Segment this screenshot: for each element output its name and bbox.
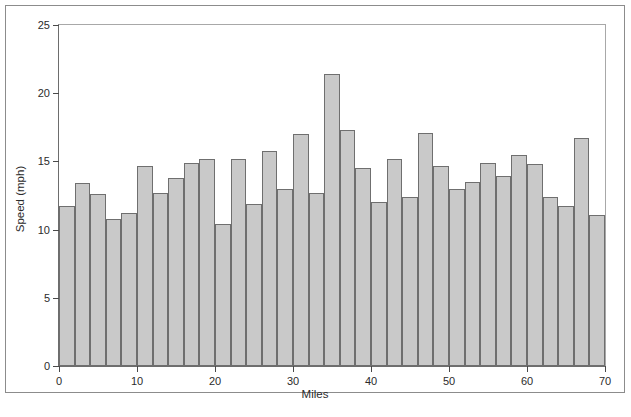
histogram-bar — [589, 215, 605, 366]
histogram-bar — [543, 197, 559, 366]
histogram-bar — [387, 159, 403, 366]
x-tick-label: 20 — [209, 375, 221, 387]
histogram-bar — [309, 193, 325, 366]
x-tick-label: 70 — [599, 375, 611, 387]
y-tick — [53, 93, 59, 94]
y-tick-label: 25 — [38, 19, 50, 31]
x-tick-label: 10 — [131, 375, 143, 387]
histogram-bar — [465, 182, 481, 366]
bars-layer — [59, 25, 605, 366]
x-tick — [527, 366, 528, 372]
x-tick-label: 50 — [443, 375, 455, 387]
histogram-bar — [75, 183, 91, 366]
x-tick — [605, 366, 606, 372]
histogram-bar — [355, 168, 371, 366]
histogram-bar — [121, 213, 137, 366]
histogram-bar — [402, 197, 418, 366]
x-tick-label: 60 — [521, 375, 533, 387]
histogram-bar — [277, 189, 293, 366]
histogram-bar — [199, 159, 215, 366]
histogram-bar — [231, 159, 247, 366]
x-tick — [59, 366, 60, 372]
x-tick — [449, 366, 450, 372]
histogram-bar — [574, 138, 590, 366]
histogram-bar — [293, 134, 309, 366]
y-tick-label: 10 — [38, 224, 50, 236]
histogram-bar — [527, 164, 543, 366]
y-tick-label: 15 — [38, 155, 50, 167]
histogram-bar — [90, 194, 106, 366]
histogram-bar — [449, 189, 465, 366]
x-tick — [137, 366, 138, 372]
histogram-bar — [106, 219, 122, 366]
histogram-bar — [215, 224, 231, 366]
histogram-bar — [59, 206, 75, 366]
y-tick — [53, 298, 59, 299]
y-tick — [53, 25, 59, 26]
histogram-bar — [340, 130, 356, 366]
histogram-bar — [324, 74, 340, 366]
x-tick — [293, 366, 294, 372]
histogram-bar — [418, 133, 434, 366]
histogram-bar — [137, 166, 153, 367]
x-tick — [215, 366, 216, 372]
histogram-bar — [558, 206, 574, 366]
y-tick — [53, 230, 59, 231]
histogram-bar — [480, 163, 496, 366]
x-axis-label: Miles — [302, 388, 329, 400]
y-tick-label: 5 — [44, 292, 50, 304]
x-tick-label: 40 — [365, 375, 377, 387]
figure-frame: Speed (mph) 0510152025 010203040506070 M… — [5, 5, 625, 393]
histogram-bar — [184, 163, 200, 366]
histogram-bar — [262, 151, 278, 367]
x-tick — [371, 366, 372, 372]
y-tick — [53, 161, 59, 162]
x-tick-label: 0 — [56, 375, 62, 387]
x-tick-label: 30 — [287, 375, 299, 387]
y-tick-label: 20 — [38, 87, 50, 99]
y-tick-label: 0 — [44, 360, 50, 372]
histogram-bar — [168, 178, 184, 366]
histogram-bar — [153, 193, 169, 366]
y-axis-label: Speed (mph) — [14, 166, 26, 232]
histogram-bar — [433, 166, 449, 367]
histogram-bar — [496, 176, 512, 366]
histogram-bar — [371, 202, 387, 366]
histogram-bar — [511, 155, 527, 366]
plot-area: 0510152025 010203040506070 — [58, 24, 606, 367]
histogram-bar — [246, 204, 262, 366]
